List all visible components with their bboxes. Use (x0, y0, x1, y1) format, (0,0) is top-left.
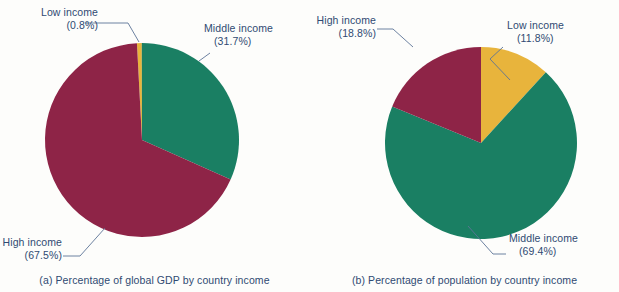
callout-b-low-income-name: Low income (507, 19, 564, 32)
callout-a-low-income-name: Low income (4, 6, 98, 19)
callout-b-middle-income-value: (69.4%) (509, 245, 578, 258)
callout-a-low-income-value: (0.8%) (4, 19, 98, 32)
caption-b: (b) Percentage of population by country … (310, 274, 619, 286)
caption-a: (a) Percentage of global GDP by country … (0, 274, 309, 286)
panel-a-gdp: Low income (0.8%) Middle income (31.7%) … (0, 0, 309, 292)
callout-b-middle-income: Middle income (69.4%) (509, 232, 578, 258)
leader-line-a-middle-income (199, 53, 210, 61)
callout-b-high-income-name: High income (310, 14, 376, 27)
callout-a-middle-income-name: Middle income (204, 22, 273, 35)
callout-a-high-income-name: High income (0, 236, 62, 249)
callout-b-high-income: High income (18.8%) (310, 14, 376, 40)
callout-b-low-income-value: (11.8%) (507, 32, 564, 45)
callout-b-middle-income-name: Middle income (509, 232, 578, 245)
panel-b-population: High income (18.8%) Low income (11.8%) M… (310, 0, 619, 292)
callout-a-high-income-value: (67.5%) (0, 249, 62, 262)
callout-a-low-income: Low income (0.8%) (4, 6, 98, 32)
callout-b-low-income: Low income (11.8%) (507, 19, 564, 45)
callout-a-high-income: High income (67.5%) (0, 236, 62, 262)
leader-line-b-high-income (377, 29, 413, 47)
callout-a-middle-income-value: (31.7%) (204, 35, 273, 48)
callout-a-middle-income: Middle income (31.7%) (204, 22, 273, 48)
callout-b-high-income-value: (18.8%) (310, 27, 376, 40)
figure-two-pie-charts: Low income (0.8%) Middle income (31.7%) … (0, 0, 619, 292)
leader-line-a-high-income (63, 228, 105, 256)
